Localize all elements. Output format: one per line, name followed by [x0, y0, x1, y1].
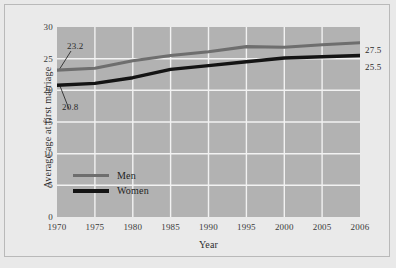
- x-tick-label: 1975: [75, 223, 115, 232]
- legend-swatch-women-icon: [73, 189, 109, 193]
- legend-label-men: Men: [117, 170, 136, 181]
- chart-legend: Men Women: [73, 168, 183, 198]
- x-tick-label: 2006: [340, 223, 380, 232]
- legend-label-women: Women: [117, 185, 149, 196]
- annotation-women-start: 20.8: [62, 102, 79, 112]
- x-tick-label: 1995: [226, 223, 266, 232]
- y-tick-label: 20: [9, 86, 53, 95]
- x-tick-label: 2000: [264, 223, 304, 232]
- annotation-men-start: 23.2: [67, 41, 84, 51]
- y-axis-tick-labels: 30 25 20 15 10 5 0: [5, 27, 53, 217]
- annotation-men-end: 27.5: [365, 45, 382, 55]
- y-tick-label: 5: [9, 181, 53, 190]
- annotation-women-end: 25.5: [365, 62, 382, 72]
- chart-figure-frame: Average age at first marriage 30 25 20 1…: [4, 4, 390, 257]
- y-tick-label: 30: [9, 23, 53, 32]
- x-tick-label: 1980: [113, 223, 153, 232]
- y-tick-label: 25: [9, 55, 53, 64]
- y-tick-label: 15: [9, 118, 53, 127]
- x-tick-label: 1990: [189, 223, 229, 232]
- legend-swatch-men-icon: [73, 174, 109, 177]
- y-tick-label: 0: [9, 213, 53, 222]
- legend-item-men: Men: [73, 168, 183, 183]
- x-tick-label: 1970: [37, 223, 77, 232]
- chart-screenshot: Average age at first marriage 30 25 20 1…: [0, 0, 396, 268]
- legend-item-women: Women: [73, 183, 183, 198]
- x-axis-tick-labels: 1970 1975 1980 1985 1990 1995 2000 2005 …: [57, 223, 360, 237]
- x-axis-title: Year: [57, 239, 360, 250]
- leader-line-men: [59, 51, 71, 70]
- y-tick-label: 10: [9, 150, 53, 159]
- x-tick-label: 2005: [302, 223, 342, 232]
- x-tick-label: 1985: [151, 223, 191, 232]
